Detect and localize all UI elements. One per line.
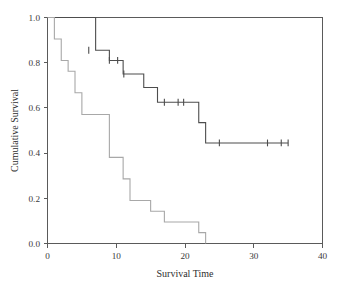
upper-survival-curve: [48, 18, 289, 143]
y-axis-title: Cumulative Survival: [9, 89, 20, 172]
kaplan-meier-plot: 010203040 0.00.20.40.60.81.0 Survival Ti…: [0, 0, 361, 290]
survival-chart-figure: 010203040 0.00.20.40.60.81.0 Survival Ti…: [0, 0, 361, 290]
censoring-marks: [89, 47, 288, 146]
y-tick-label: 0.4: [29, 148, 41, 158]
survival-curves: [48, 18, 289, 244]
x-tick-label: 20: [180, 251, 190, 261]
y-tick-label: 0.2: [29, 194, 41, 204]
y-axis-ticks: [44, 18, 48, 244]
x-tick-label: 30: [249, 251, 259, 261]
x-axis-tick-labels: 010203040: [45, 251, 327, 261]
x-tick-label: 40: [318, 251, 328, 261]
x-tick-label: 0: [45, 251, 50, 261]
x-axis-title: Survival Time: [157, 268, 215, 279]
y-axis-tick-labels: 0.00.20.40.60.81.0: [29, 13, 41, 249]
y-tick-label: 0.0: [29, 239, 41, 249]
lower-survival-curve: [48, 18, 206, 244]
y-tick-label: 1.0: [29, 13, 41, 23]
y-tick-label: 0.8: [29, 58, 41, 68]
x-axis-ticks: [48, 244, 323, 248]
x-tick-label: 10: [112, 251, 122, 261]
y-tick-label: 0.6: [29, 103, 41, 113]
